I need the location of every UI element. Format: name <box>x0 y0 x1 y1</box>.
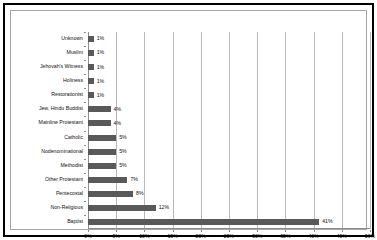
category-label: Methodist <box>61 163 84 168</box>
category-tick-mark <box>84 187 86 188</box>
bar-chart: UnknownMuslimJehovah's WitnessHolinessRe… <box>20 20 377 240</box>
plot-area: 1%1%1%1%1%4%4%5%5%5%7%8%12%41% <box>88 32 370 229</box>
category-tick-mark <box>84 173 86 174</box>
bar-value-label: 4% <box>114 121 122 126</box>
bar-value-label: 41% <box>322 219 332 224</box>
bar-row: 4% <box>88 105 370 113</box>
category-axis: UnknownMuslimJehovah's WitnessHolinessRe… <box>20 32 86 229</box>
x-tick-mark <box>342 230 343 232</box>
category-tick-mark <box>84 145 86 146</box>
x-tick-mark <box>173 230 174 232</box>
x-tick-label: 30% <box>252 234 262 239</box>
bar <box>88 106 111 112</box>
bar-row: 7% <box>88 176 370 184</box>
x-tick-mark <box>116 230 117 232</box>
x-tick-label: 45% <box>337 234 347 239</box>
x-tick-mark <box>370 230 371 232</box>
bar-row: 8% <box>88 190 370 198</box>
bar-value-label: 1% <box>97 65 105 70</box>
bar-row: 12% <box>88 204 370 212</box>
x-tick-label: 50% <box>365 234 375 239</box>
bar-value-label: 4% <box>114 107 122 112</box>
bar-row: 41% <box>88 218 370 226</box>
bar <box>88 78 94 84</box>
category-label: Baptist <box>67 219 83 224</box>
bar-row: 1% <box>88 63 370 71</box>
bar <box>88 50 94 56</box>
category-tick-mark <box>84 88 86 89</box>
x-tick-mark <box>314 230 315 232</box>
bar-value-label: 1% <box>97 50 105 55</box>
category-label: Mainline Protestant <box>39 121 83 126</box>
x-tick-label: 35% <box>280 234 290 239</box>
category-label: Nodenominational <box>41 149 83 154</box>
bar-rows: 1%1%1%1%1%4%4%5%5%5%7%8%12%41% <box>88 32 370 229</box>
category-tick-mark <box>84 201 86 202</box>
bar <box>88 120 111 126</box>
bar-row: 1% <box>88 49 370 57</box>
bar <box>88 135 116 141</box>
bar <box>88 191 133 197</box>
bar-row: 5% <box>88 134 370 142</box>
bar-value-label: 1% <box>97 93 105 98</box>
x-tick-mark <box>201 230 202 232</box>
bar-row: 4% <box>88 119 370 127</box>
bar-value-label: 1% <box>97 36 105 41</box>
x-tick-label: 0% <box>84 234 92 239</box>
bar-row: 1% <box>88 77 370 85</box>
x-tick-mark <box>144 230 145 232</box>
x-tick-label: 15% <box>167 234 177 239</box>
x-tick-mark <box>285 230 286 232</box>
gridline-50pct <box>370 32 371 229</box>
bar-row: 5% <box>88 162 370 170</box>
category-tick-mark <box>84 102 86 103</box>
chart-frame-inner: UnknownMuslimJehovah's WitnessHolinessRe… <box>10 10 367 230</box>
bar <box>88 149 116 155</box>
x-tick-mark <box>257 230 258 232</box>
category-label: Pentecostal <box>56 191 83 196</box>
bar <box>88 163 116 169</box>
x-tick-label: 10% <box>139 234 149 239</box>
x-tick-label: 20% <box>196 234 206 239</box>
category-label: Restorationist <box>51 93 83 98</box>
bar-value-label: 1% <box>97 79 105 84</box>
bar <box>88 36 94 42</box>
category-tick-mark <box>84 74 86 75</box>
category-label: Jew, Hindu Buddist <box>39 107 83 112</box>
bar <box>88 64 94 70</box>
x-tick-mark <box>88 230 89 232</box>
category-tick-mark <box>84 46 86 47</box>
x-tick-label: 40% <box>308 234 318 239</box>
x-axis-line <box>88 228 370 229</box>
x-tick-label: 25% <box>224 234 234 239</box>
category-tick-mark <box>84 116 86 117</box>
bar-value-label: 8% <box>136 191 144 196</box>
chart-frame-outer: UnknownMuslimJehovah's WitnessHolinessRe… <box>3 3 374 237</box>
category-label: Non-Religious <box>50 205 83 210</box>
category-label: Holiness <box>63 79 83 84</box>
bar <box>88 177 127 183</box>
category-tick-mark <box>84 131 86 132</box>
category-tick-mark <box>84 32 86 33</box>
category-label: Other Protestant <box>45 177 83 182</box>
category-tick-mark <box>84 215 86 216</box>
bar-value-label: 5% <box>119 135 127 140</box>
bar-value-label: 5% <box>119 149 127 154</box>
bar-value-label: 12% <box>159 205 169 210</box>
category-tick-mark <box>84 60 86 61</box>
bar-row: 5% <box>88 148 370 156</box>
bar <box>88 219 319 225</box>
bar <box>88 92 94 98</box>
bar-value-label: 5% <box>119 163 127 168</box>
bar <box>88 205 156 211</box>
category-label: Unknown <box>61 36 83 41</box>
category-label: Catholic <box>64 135 83 140</box>
x-tick-label: 5% <box>112 234 120 239</box>
category-label: Muslim <box>67 50 83 55</box>
x-axis-ticks: 0%5%10%15%20%25%30%35%40%45%50% <box>88 230 370 240</box>
bar-row: 1% <box>88 35 370 43</box>
category-tick-mark <box>84 159 86 160</box>
bar-value-label: 7% <box>130 177 138 182</box>
category-label: Jehovah's Witness <box>40 65 83 70</box>
x-tick-mark <box>229 230 230 232</box>
